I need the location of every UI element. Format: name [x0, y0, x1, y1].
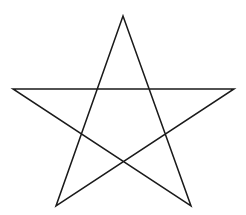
star-outline — [13, 16, 234, 206]
diagram-canvas — [0, 0, 246, 215]
pentagram-star-icon — [0, 0, 246, 215]
